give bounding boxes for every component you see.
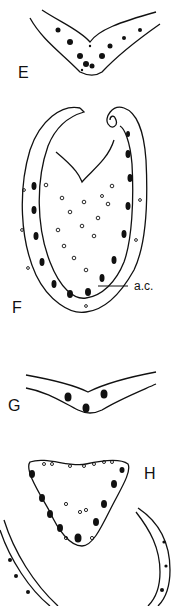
panel-label-e: E	[18, 65, 29, 81]
panel-label-f: F	[12, 300, 22, 316]
panel-e-section	[30, 10, 160, 75]
panel-h-section	[0, 460, 170, 606]
panel-label-h: H	[144, 466, 156, 482]
annotation-ac: a.c.	[134, 280, 153, 292]
panel-g-section	[26, 372, 156, 413]
panel-label-g: G	[8, 398, 20, 414]
panel-f-section	[21, 107, 147, 312]
botanical-figure	[0, 0, 182, 606]
